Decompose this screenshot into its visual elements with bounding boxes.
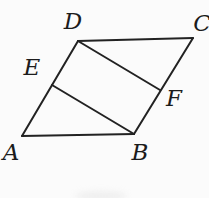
geometry-figure: A B C D E F <box>0 0 209 198</box>
segment-AB <box>22 134 134 136</box>
vertex-label-f: F <box>166 87 182 110</box>
vertex-label-d: D <box>64 10 82 33</box>
segment-DF <box>78 41 160 90</box>
segment-CD <box>78 38 193 41</box>
scan-artifact <box>75 191 127 198</box>
vertex-label-c: C <box>193 12 209 35</box>
segment-BC <box>134 38 193 134</box>
segment-EB <box>52 85 134 134</box>
vertex-label-e: E <box>24 56 41 79</box>
vertex-label-a: A <box>3 141 20 164</box>
vertex-label-b: B <box>132 141 149 164</box>
